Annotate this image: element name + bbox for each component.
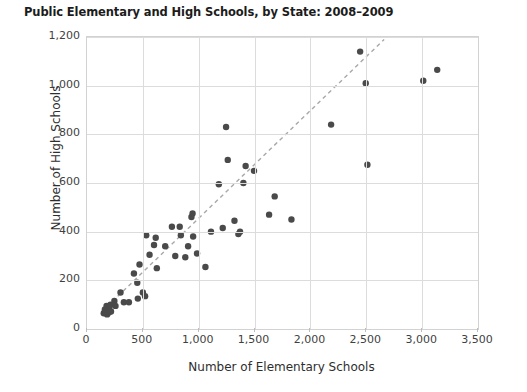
x-tick-label: 0 bbox=[56, 333, 116, 346]
scatter-point bbox=[357, 48, 363, 54]
gridline-vertical bbox=[366, 37, 367, 329]
scatter-point bbox=[231, 218, 237, 224]
gridline-vertical bbox=[310, 37, 311, 329]
scatter-point bbox=[112, 303, 118, 309]
scatter-point bbox=[266, 211, 272, 217]
x-tick-label: 3,000 bbox=[391, 333, 451, 346]
y-tick-label: 1,000 bbox=[4, 78, 80, 91]
scatter-point bbox=[182, 254, 188, 260]
scatter-point bbox=[153, 235, 159, 241]
x-tick-mark bbox=[142, 328, 143, 332]
plot-area bbox=[86, 36, 479, 330]
scatter-point bbox=[162, 243, 168, 249]
scatter-point bbox=[223, 124, 229, 130]
scatter-point bbox=[328, 121, 334, 127]
gridline-horizontal bbox=[87, 232, 478, 233]
gridline-horizontal bbox=[87, 37, 478, 38]
scatter-point bbox=[185, 243, 191, 249]
y-tick-label: 600 bbox=[4, 175, 80, 188]
scatter-point bbox=[151, 242, 157, 248]
y-tick-label: 400 bbox=[4, 224, 80, 237]
scatter-point bbox=[117, 289, 123, 295]
scatter-point bbox=[131, 270, 137, 276]
gridline-horizontal bbox=[87, 183, 478, 184]
scatter-point bbox=[177, 224, 183, 230]
x-tick-label: 2,000 bbox=[279, 333, 339, 346]
scatter-point bbox=[220, 225, 226, 231]
scatter-point bbox=[202, 264, 208, 270]
scatter-point bbox=[190, 233, 196, 239]
y-tick-label: 800 bbox=[4, 126, 80, 139]
x-tick-mark bbox=[86, 328, 87, 332]
x-axis-tick-labels: 05001,0001,5002,0002,5003,0003,500 bbox=[86, 333, 477, 351]
y-axis-tick-labels: 02004006008001,0001,200 bbox=[0, 36, 80, 328]
scatter-point bbox=[135, 295, 141, 301]
scatter-point bbox=[288, 216, 294, 222]
scatter-point bbox=[126, 299, 132, 305]
scatter-point bbox=[251, 168, 257, 174]
x-tick-label: 1,500 bbox=[224, 333, 284, 346]
scatter-point bbox=[242, 163, 248, 169]
gridline-horizontal bbox=[87, 134, 478, 135]
gridline-vertical bbox=[422, 37, 423, 329]
x-tick-mark bbox=[365, 328, 366, 332]
x-tick-label: 3,500 bbox=[447, 333, 507, 346]
scatter-point bbox=[169, 224, 175, 230]
x-tick-mark bbox=[477, 328, 478, 332]
scatter-point bbox=[225, 157, 231, 163]
x-tick-label: 2,500 bbox=[335, 333, 395, 346]
gridline-vertical bbox=[199, 37, 200, 329]
x-tick-mark bbox=[421, 328, 422, 332]
gridline-horizontal bbox=[87, 280, 478, 281]
x-tick-label: 500 bbox=[112, 333, 172, 346]
x-axis-title: Number of Elementary Schools bbox=[86, 360, 477, 374]
x-tick-label: 1,000 bbox=[168, 333, 228, 346]
scatter-point bbox=[189, 210, 195, 216]
y-tick-label: 1,200 bbox=[4, 29, 80, 42]
scatter-point bbox=[172, 253, 178, 259]
scatter-point bbox=[434, 67, 440, 73]
gridline-horizontal bbox=[87, 86, 478, 87]
y-axis-title: Number of High Schools bbox=[49, 12, 63, 304]
x-tick-mark bbox=[198, 328, 199, 332]
chart-title: Public Elementary and High Schools, by S… bbox=[24, 5, 393, 19]
scatter-point bbox=[271, 193, 277, 199]
gridline-vertical bbox=[255, 37, 256, 329]
chart-figure: Public Elementary and High Schools, by S… bbox=[0, 0, 527, 392]
scatter-point bbox=[216, 181, 222, 187]
scatter-point bbox=[154, 265, 160, 271]
x-tick-mark bbox=[309, 328, 310, 332]
scatter-point bbox=[146, 252, 152, 258]
y-tick-label: 200 bbox=[4, 272, 80, 285]
scatter-point bbox=[178, 232, 184, 238]
gridline-vertical bbox=[143, 37, 144, 329]
x-tick-mark bbox=[254, 328, 255, 332]
scatter-point bbox=[136, 261, 142, 267]
scatter-point bbox=[108, 308, 114, 314]
